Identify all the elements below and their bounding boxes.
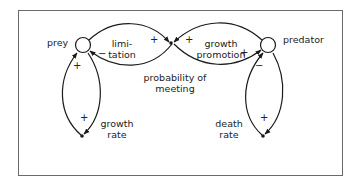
growth-promotion-label-line1: growth	[196, 38, 246, 49]
limitation-label-line1: limi-	[104, 38, 140, 49]
sign-predator-to-meeting: +	[185, 35, 193, 45]
death-rate-node	[261, 134, 265, 138]
limitation-label: limi- tation	[104, 38, 140, 60]
growth-rate-label: growth rate	[100, 118, 134, 140]
sign-meeting-to-predator: +	[240, 48, 248, 58]
meeting-label-line1: probability of	[137, 72, 213, 83]
growth-rate-node	[80, 134, 84, 138]
sign-prey-to-meeting: +	[150, 35, 158, 45]
growth-rate-label-line2: rate	[100, 129, 134, 140]
sign-death-to-predator: −	[255, 61, 263, 71]
prey-label: prey	[47, 37, 68, 48]
prey-node	[76, 38, 91, 53]
limitation-label-line2: tation	[104, 49, 140, 60]
causal-loop-diagram: prey predator probability of meeting gro…	[0, 0, 360, 188]
predator-node	[261, 38, 276, 53]
sign-meeting-to-prey: −	[98, 49, 106, 59]
growth-promotion-label: growth promotion	[196, 38, 246, 60]
death-rate-label-line2: rate	[212, 129, 246, 140]
meeting-node	[169, 41, 173, 45]
death-rate-label: death rate	[212, 118, 246, 140]
growth-rate-label-line1: growth	[100, 118, 134, 129]
diagram-graphics	[0, 0, 360, 188]
growth-promotion-label-line2: promotion	[196, 49, 246, 60]
meeting-label-line2: meeting	[137, 83, 213, 94]
death-rate-label-line1: death	[212, 118, 246, 129]
meeting-label: probability of meeting	[137, 72, 213, 94]
sign-growth-to-prey: +	[73, 61, 81, 71]
sign-prey-to-growth: +	[80, 113, 88, 123]
predator-label: predator	[283, 34, 324, 45]
sign-predator-to-death: +	[260, 113, 268, 123]
